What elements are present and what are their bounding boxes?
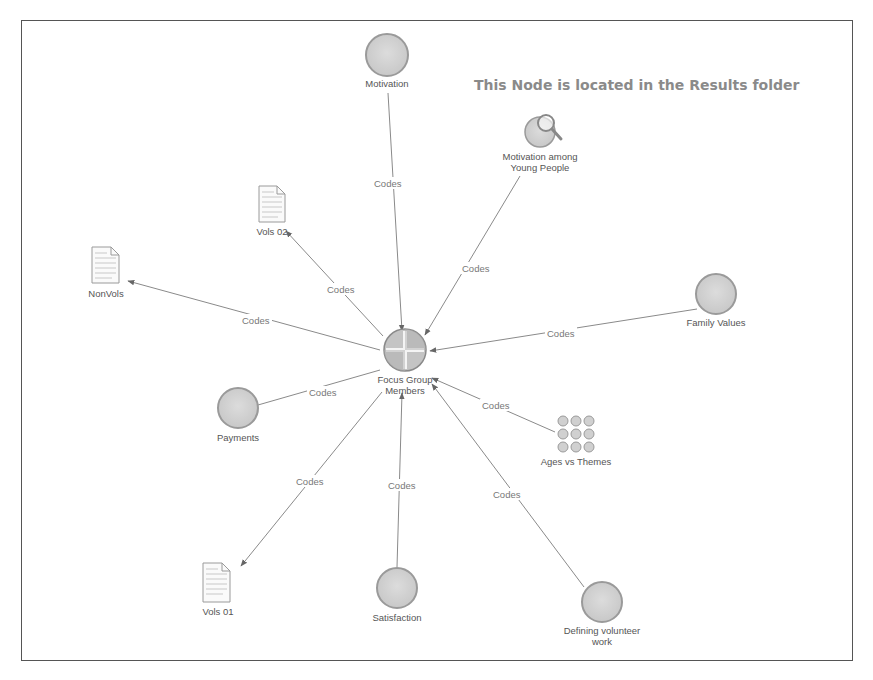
edge-label: Codes: [327, 284, 355, 295]
node-icon: [377, 568, 417, 608]
matrix-icon: [558, 416, 594, 452]
node-defining-volunteer-work[interactable]: Defining volunteer work: [564, 582, 641, 647]
document-icon: [92, 247, 119, 283]
node-label: Payments: [217, 432, 259, 443]
node-label: Satisfaction: [372, 612, 421, 623]
node-payments[interactable]: Payments: [217, 388, 259, 443]
edge-label: Codes: [493, 489, 521, 500]
edge-motivation[interactable]: [388, 93, 402, 331]
node-label: Members: [385, 385, 425, 396]
node-focus-group-members[interactable]: Focus Group Members: [378, 329, 433, 396]
edge-label: Codes: [547, 328, 575, 339]
node-satisfaction[interactable]: Satisfaction: [372, 568, 421, 623]
node-label: Family Values: [687, 317, 746, 328]
node-label: Young People: [511, 162, 570, 173]
edge-label: Codes: [296, 476, 324, 487]
edge-label: Codes: [482, 400, 510, 411]
node-ages-vs-themes[interactable]: Ages vs Themes: [541, 416, 612, 467]
node-label: Motivation among: [503, 151, 578, 162]
node-vols-02[interactable]: Vols 02: [256, 186, 287, 237]
node-motivation-young-people[interactable]: Motivation among Young People: [503, 115, 578, 173]
node-icon: [218, 388, 258, 428]
node-family-values[interactable]: Family Values: [687, 274, 746, 328]
network-graph: Codes Codes Codes Codes Codes Codes Code…: [0, 0, 873, 680]
node-icon: [696, 274, 736, 314]
node-nonvols[interactable]: NonVols: [88, 247, 124, 299]
edge-label: Codes: [462, 263, 490, 274]
node-icon: [366, 34, 408, 76]
node-label: Motivation: [365, 78, 408, 89]
document-icon: [203, 563, 230, 602]
node-label: work: [591, 636, 612, 647]
document-icon: [259, 186, 285, 222]
node-label: Focus Group: [378, 374, 433, 385]
node-vols-01[interactable]: Vols 01: [202, 563, 233, 617]
edge-defining[interactable]: [432, 384, 584, 587]
node-label: Vols 01: [202, 606, 233, 617]
node-label: Vols 02: [256, 226, 287, 237]
edge-label: Codes: [309, 387, 337, 398]
edge-label: Codes: [374, 178, 402, 189]
node-label: NonVols: [88, 288, 124, 299]
results-folder-annotation: This Node is located in the Results fold…: [474, 77, 799, 93]
node-label: Ages vs Themes: [541, 456, 612, 467]
node-motivation[interactable]: Motivation: [365, 34, 408, 89]
edge-motivation-young[interactable]: [425, 176, 520, 335]
node-icon: [582, 582, 622, 622]
edge-label: Codes: [388, 480, 416, 491]
edge-label: Codes: [242, 315, 270, 326]
node-label: Defining volunteer: [564, 625, 641, 636]
